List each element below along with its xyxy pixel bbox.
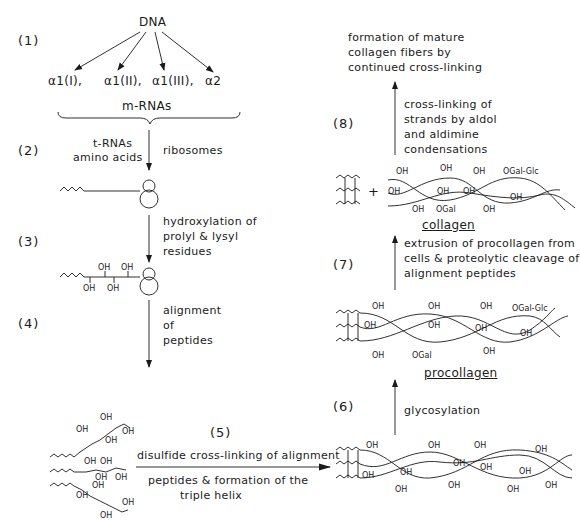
ribosomes-label: ribosomes	[163, 143, 223, 158]
svg-text:OH: OH	[396, 167, 408, 176]
step3-line2: prolyl & lysyl	[163, 229, 238, 244]
svg-text:OH: OH	[475, 324, 487, 333]
svg-text:OGal-Glc: OGal-Glc	[503, 167, 539, 176]
svg-text:OH: OH	[480, 463, 492, 472]
arrow-dna-a1ii	[118, 32, 146, 70]
svg-text:OH: OH	[115, 473, 127, 482]
step3-line1: hydroxylation of	[163, 214, 257, 229]
svg-text:OH: OH	[76, 491, 88, 500]
svg-text:OH: OH	[105, 436, 117, 445]
trnas-label: t-RNAs	[93, 136, 132, 151]
step4-line2: of	[163, 318, 174, 333]
final-line1: formation of mature	[348, 30, 465, 45]
svg-text:OH: OH	[483, 347, 495, 356]
amino-acids-label: amino acids	[73, 150, 143, 165]
step7-line2: cells & proteolytic cleavage of	[404, 251, 580, 266]
final-line3: continued cross-linking	[348, 60, 482, 75]
step-1-label: (1)	[18, 33, 39, 48]
dna-label: DNA	[139, 15, 166, 30]
svg-text:OH: OH	[440, 164, 452, 173]
svg-text:OH: OH	[535, 445, 547, 454]
svg-text:OH: OH	[510, 193, 522, 202]
step3-line3: residues	[163, 244, 212, 259]
step-4-label: (4)	[18, 316, 39, 331]
svg-text:OH: OH	[122, 498, 134, 507]
svg-text:OH: OH	[121, 263, 133, 272]
step7-line3: alignment peptides	[404, 266, 516, 281]
step5-below-1: peptides & formation of the	[148, 473, 308, 488]
svg-text:OH: OH	[372, 302, 384, 311]
mrna-alpha1-i: α1(I),	[48, 74, 82, 89]
glycosylation-label: glycosylation	[404, 403, 480, 418]
svg-text:OH: OH	[545, 481, 557, 490]
svg-text:OH: OH	[473, 167, 485, 176]
step7-line1: extrusion of procollagen from	[404, 236, 575, 251]
svg-text:OH: OH	[122, 427, 134, 436]
final-line2: collagen fibers by	[348, 45, 451, 60]
svg-text:OH: OH	[98, 263, 110, 272]
svg-text:OH: OH	[92, 481, 104, 490]
step8-line2: strands by aldol	[404, 112, 497, 127]
arrow-dna-a2	[162, 32, 213, 72]
step8-line3: and aldimine	[404, 127, 479, 142]
svg-text:OH: OH	[400, 468, 412, 477]
step-6-label: (6)	[333, 399, 354, 414]
svg-text:OH: OH	[507, 485, 519, 494]
step8-line1: cross-linking of	[404, 97, 492, 112]
step4-line3: peptides	[163, 333, 213, 348]
svg-text:OH: OH	[100, 511, 112, 520]
step5-below-2: triple helix	[180, 488, 242, 503]
svg-text:OH: OH	[520, 329, 532, 338]
svg-text:OH: OH	[428, 321, 440, 330]
svg-text:OH: OH	[107, 284, 119, 293]
arrow-dna-a1iii	[155, 32, 164, 70]
svg-text:OH: OH	[474, 441, 486, 450]
svg-text:OH: OH	[463, 187, 475, 196]
svg-text:OH: OH	[480, 302, 492, 311]
svg-text:OH: OH	[395, 485, 407, 494]
svg-text:OH: OH	[428, 302, 440, 311]
mrna-alpha1-iii: α1(III),	[152, 74, 194, 89]
mrna-alpha2: α2	[205, 74, 221, 89]
svg-text:OH: OH	[437, 187, 449, 196]
svg-text:OH: OH	[100, 457, 112, 466]
svg-text:OGal: OGal	[436, 205, 456, 214]
svg-text:OH: OH	[453, 459, 465, 468]
plus-sign: +	[368, 184, 379, 199]
svg-text:OH: OH	[428, 441, 440, 450]
svg-text:OH: OH	[412, 205, 424, 214]
svg-text:OH: OH	[364, 321, 376, 330]
mrna-alpha1-ii: α1(II),	[104, 74, 142, 89]
step5-above: disulfide cross-linking of alignment	[137, 448, 340, 463]
svg-text:OH: OH	[483, 205, 495, 214]
step4-line1: alignment	[163, 303, 221, 318]
svg-text:OH: OH	[519, 467, 531, 476]
svg-text:OH: OH	[76, 425, 88, 434]
arrow-dna-a1i	[75, 32, 140, 70]
svg-text:OH: OH	[448, 481, 460, 490]
step-2-label: (2)	[18, 143, 39, 158]
svg-text:OGal-Glc: OGal-Glc	[512, 304, 548, 313]
step8-line4: condensations	[404, 142, 488, 157]
svg-text:OGal: OGal	[412, 351, 432, 360]
svg-text:OH: OH	[84, 457, 96, 466]
procollagen-label: procollagen	[424, 366, 498, 381]
svg-text:OH: OH	[100, 413, 112, 422]
svg-text:OH: OH	[366, 441, 378, 450]
step-3-label: (3)	[18, 234, 39, 249]
mrnas-label: m-RNAs	[122, 99, 172, 114]
oh-label: OH	[83, 284, 95, 293]
collagen-label: collagen	[422, 218, 475, 233]
svg-text:OH: OH	[388, 187, 400, 196]
svg-text:OH: OH	[362, 471, 374, 480]
svg-text:OH: OH	[372, 351, 384, 360]
step-5-label: (5)	[210, 425, 231, 440]
step-7-label: (7)	[333, 257, 354, 272]
step-8-label: (8)	[333, 116, 354, 131]
